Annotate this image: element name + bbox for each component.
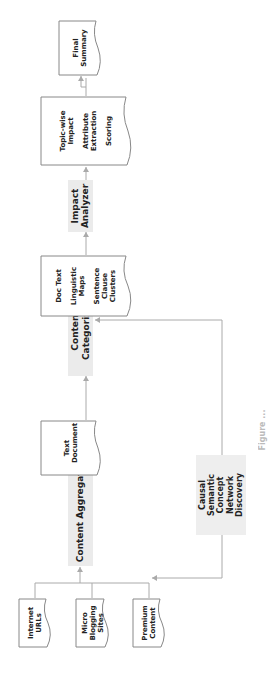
input-label: Internet URLs: [27, 598, 43, 648]
doc-line-topic-wise-impact: Topic-wise Impact: [59, 103, 75, 159]
process-label: Impact Analyzer: [70, 183, 91, 229]
doc-linguistic-analysis: Doc Text Linguistic Maps Sentence Clause…: [40, 255, 132, 317]
process-label: Content Aggregator: [75, 461, 85, 562]
doc-line-scoring: Scoring: [105, 116, 113, 146]
doc-final-summary: Final Summary: [58, 20, 102, 76]
doc-line-sentence-clause-clusters: Sentence Clause Clusters: [93, 264, 117, 308]
input-doc-premium-content: Premium Content: [132, 598, 166, 648]
input-label: Micro Blogging Sites: [81, 598, 105, 648]
figure-caption: Figure ...: [258, 300, 268, 560]
input-doc-internet-urls: Internet URLs: [18, 598, 52, 648]
input-doc-micro-blogging: Micro Blogging Sites: [75, 598, 110, 648]
doc-label: Text Document: [63, 433, 79, 463]
input-label: Premium Content: [141, 598, 157, 648]
doc-label: Final Summary: [72, 28, 88, 68]
doc-topic-wise-impact: Topic-wise Impact Attribute Extraction S…: [40, 96, 132, 166]
doc-line-attribute-extraction: Attribute Extraction: [82, 108, 98, 154]
doc-line-linguistic-maps: Linguistic Maps: [70, 264, 86, 308]
process-impact-analyzer: Impact Analyzer: [68, 180, 93, 232]
doc-text-document: Text Document: [40, 420, 102, 476]
process-causal-semantic-network: Causal Semantic Concept Network Discover…: [196, 455, 246, 535]
doc-line-doc-text: Doc Text: [55, 269, 63, 303]
process-label: Causal Semantic Concept Network Discover…: [198, 465, 244, 525]
